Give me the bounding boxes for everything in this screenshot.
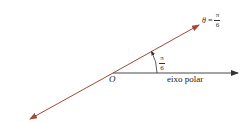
polar-axis-label: eixo polar [167, 75, 203, 84]
angle-denominator: 6 [160, 65, 164, 72]
theta-symbol: θ [202, 16, 206, 25]
angle-numerator: π [160, 55, 164, 62]
origin-label: O [109, 75, 116, 84]
ray-lower [30, 73, 113, 119]
ray-denominator: 6 [216, 22, 220, 29]
ray-label: θ = π 6 [202, 12, 220, 29]
ray-numerator: π [216, 12, 220, 19]
angle-arc [152, 52, 158, 74]
ray-upper [113, 25, 199, 73]
equals-sign: = [208, 16, 213, 25]
angle-label: π 6 [159, 55, 165, 72]
